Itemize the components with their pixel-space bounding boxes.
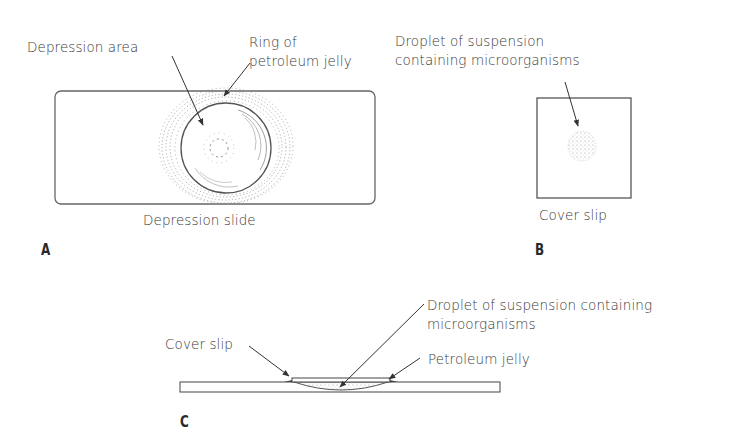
panel-letter-a: A (41, 241, 50, 259)
label-droplet-line2: containing microorganisms (395, 52, 580, 68)
label-depression-area: Depression area (27, 39, 138, 55)
caption-cover-slip: Cover slip (539, 207, 607, 223)
cover-slip-top-view (537, 82, 631, 198)
panel-letter-c: C (180, 413, 189, 431)
petroleum-jelly-ring (159, 88, 293, 204)
label-droplet-line1: Droplet of suspension (395, 33, 544, 49)
depression-area-circle (181, 103, 271, 193)
label-cover-slip-side: Cover slip (165, 336, 233, 352)
depression-slide-top-view (55, 56, 375, 204)
caption-depression-slide: Depression slide (143, 212, 256, 228)
label-droplet-side-line2: microorganisms (427, 316, 536, 332)
wet-mount-diagram: Depression area Ring of petroleum jelly … (0, 0, 739, 441)
label-droplet-side-line1: Droplet of suspension containing (427, 297, 652, 313)
diagram-drawing (0, 0, 739, 441)
label-petroleum-jelly-side: Petroleum jelly (428, 351, 530, 367)
label-ring-of: Ring of (249, 34, 297, 50)
panel-letter-b: B (535, 241, 544, 259)
droplet (568, 131, 596, 161)
label-petroleum-jelly: petroleum jelly (249, 53, 352, 69)
